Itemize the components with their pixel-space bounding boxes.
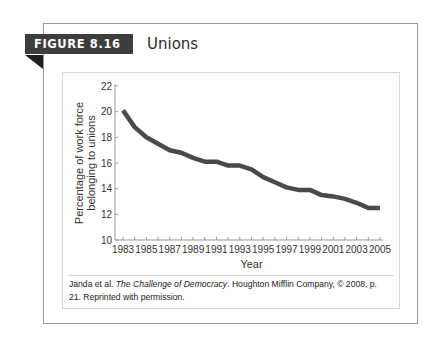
y-tick-label: 16 (101, 158, 113, 169)
x-tick-label: 1987 (159, 244, 182, 255)
source-caption: Janda et al. The Challenge of Democracy.… (69, 278, 389, 303)
y-tick-label: 18 (101, 132, 113, 143)
caption-authors: Janda et al. (69, 279, 116, 289)
x-tick-label: 2003 (346, 244, 369, 255)
y-axis-title-line-1: Percentage of work force (73, 102, 85, 224)
x-tick-label: 1991 (205, 244, 228, 255)
y-tick-label: 10 (101, 235, 113, 246)
x-tick-label: 1999 (299, 244, 322, 255)
y-tick-label: 14 (101, 183, 113, 194)
y-tick-label: 12 (101, 209, 113, 220)
x-tick-label: 1983 (112, 244, 135, 255)
caption-book-title: The Challenge of Democracy (116, 279, 227, 289)
x-tick-label: 2001 (322, 244, 345, 255)
caption-divider (68, 275, 394, 276)
x-tick-label: 1989 (182, 244, 205, 255)
x-tick-label: 2005 (369, 244, 392, 255)
union-membership-line (123, 110, 380, 207)
x-tick-label: 1993 (229, 244, 252, 255)
x-tick-label: 1995 (252, 244, 275, 255)
y-axis-title-line-2: belonging to unions (85, 115, 97, 211)
x-axis-title: Year (240, 258, 263, 270)
y-tick-label: 22 (101, 81, 113, 92)
x-tick-label: 1985 (135, 244, 158, 255)
y-tick-label: 20 (101, 106, 113, 117)
x-tick-label: 1997 (275, 244, 298, 255)
